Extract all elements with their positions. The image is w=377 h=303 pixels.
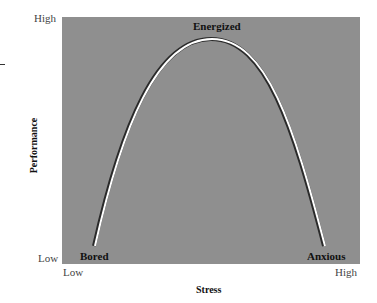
y-axis-title: Performance xyxy=(28,111,39,181)
x-tick-high: High xyxy=(335,266,357,278)
annotation-anxious: Anxious xyxy=(307,250,346,262)
x-tick-low: Low xyxy=(63,266,83,278)
margin-mark xyxy=(0,64,5,65)
annotation-bored: Bored xyxy=(80,250,109,262)
annotation-energized: Energized xyxy=(193,20,241,32)
x-axis-title: Stress xyxy=(196,284,221,295)
y-tick-low: Low xyxy=(38,252,58,264)
plot-area xyxy=(62,17,360,264)
performance-curve xyxy=(62,17,360,264)
y-tick-high: High xyxy=(34,12,56,24)
